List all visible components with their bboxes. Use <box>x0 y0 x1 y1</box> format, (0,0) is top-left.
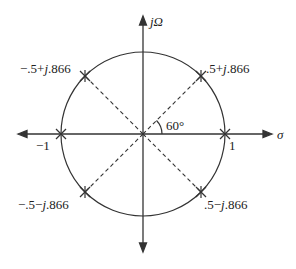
up-arrow-icon <box>140 16 147 25</box>
angle-arc <box>157 121 163 135</box>
pole-label-p1: .5+j.866 <box>206 61 250 76</box>
jomega-label: jΩ <box>148 14 163 29</box>
axes <box>18 16 272 252</box>
label-minus-one: −1 <box>36 138 50 153</box>
angle-label: 60° <box>166 118 184 133</box>
pole-label-p4: .5−j.866 <box>204 197 248 212</box>
pole-label-p2: −.5+j.866 <box>20 61 71 76</box>
pole-diagram: jΩ σ 1 −1 60° .5+j.866 −.5+j.866 −.5−j.8… <box>0 0 296 269</box>
down-arrow-icon <box>140 243 147 252</box>
pole-marker-p3 <box>80 186 90 198</box>
pole-label-p3: −.5−j.866 <box>18 197 69 212</box>
pole-marker-p2 <box>80 70 90 82</box>
left-arrow-icon <box>18 131 27 138</box>
sigma-label: σ <box>277 127 284 142</box>
label-one: 1 <box>229 138 236 153</box>
pole-marker-p1 <box>196 70 206 82</box>
right-arrow-icon <box>263 131 272 138</box>
